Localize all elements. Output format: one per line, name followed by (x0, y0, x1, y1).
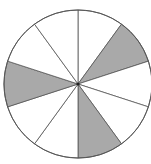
center-point (77, 83, 80, 86)
fraction-circle (0, 0, 151, 164)
